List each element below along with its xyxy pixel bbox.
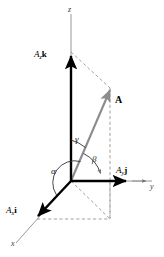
vector-direction-angles-figure: Azk Ayj Axi A z y x γ β α (0, 0, 164, 257)
dash-origin-to-base (71, 181, 110, 219)
component-z-unit-vector: k (42, 49, 47, 59)
component-x-unit-vector: i (14, 205, 17, 215)
angle-beta-label: β (92, 155, 96, 164)
component-y-label: Ayj (116, 166, 127, 176)
component-x-arrow (38, 181, 71, 216)
x-axis-label: x (11, 240, 15, 248)
figure-canvas (0, 0, 164, 257)
dashed-construction-lines (37, 52, 110, 219)
component-vectors (38, 56, 126, 216)
component-z-label: Azk (34, 50, 47, 60)
angle-alpha-label: α (51, 167, 56, 176)
vector-a-label: A (115, 95, 122, 105)
component-x-label: Axi (6, 206, 17, 216)
z-axis-label: z (68, 6, 71, 14)
angle-gamma-label: γ (75, 135, 79, 144)
dash-z-to-a (71, 52, 110, 88)
component-y-unit-vector: j (124, 165, 127, 175)
y-axis-label: y (150, 183, 154, 191)
